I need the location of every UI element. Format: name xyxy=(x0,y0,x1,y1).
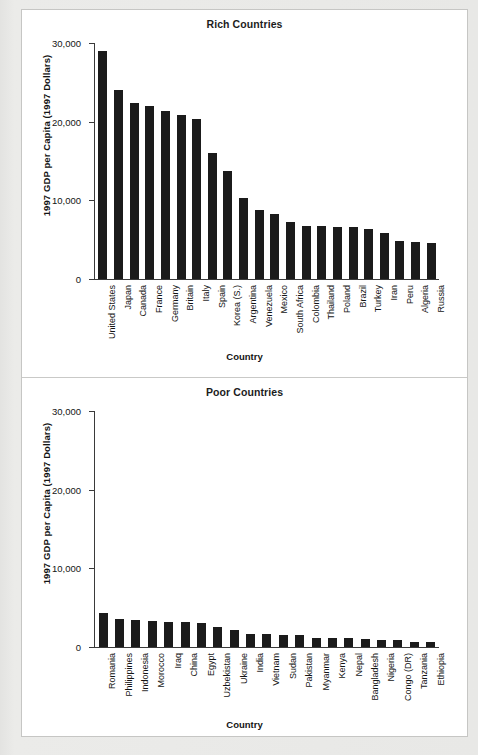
bar xyxy=(246,634,255,647)
page-background: Rich Countries 1997 GDP per Capita (1997… xyxy=(0,0,478,755)
bar xyxy=(393,640,402,647)
bar xyxy=(223,171,232,279)
bar-slot xyxy=(392,43,408,279)
bar-slot xyxy=(283,43,299,279)
bar-slot xyxy=(377,43,393,279)
bar xyxy=(295,635,304,647)
chart-panel-poor: Poor Countries 1997 GDP per Capita (1997… xyxy=(22,378,467,745)
bar-slot xyxy=(95,43,111,279)
bar xyxy=(344,638,353,647)
bar xyxy=(333,227,342,279)
bar xyxy=(131,620,140,647)
category-slot: Romania xyxy=(95,651,111,717)
bar-slot xyxy=(226,411,242,647)
bar-slot xyxy=(330,43,346,279)
bar-slot xyxy=(144,411,160,647)
category-slot: France xyxy=(142,283,158,349)
y-tick-label: 20,000 xyxy=(52,484,81,495)
bar-slot xyxy=(126,43,142,279)
chart-title-poor: Poor Countries xyxy=(22,386,467,398)
y-tick-label: 0 xyxy=(76,274,81,285)
bar-slot xyxy=(111,43,127,279)
bar xyxy=(361,639,370,647)
category-slot: South Africa xyxy=(283,283,299,349)
bar xyxy=(161,111,170,279)
bar xyxy=(286,222,295,279)
x-axis-label-rich: Country xyxy=(22,351,467,362)
chart-panel-rich: Rich Countries 1997 GDP per Capita (1997… xyxy=(22,10,467,377)
bar xyxy=(164,622,173,647)
bar xyxy=(317,226,326,279)
bar xyxy=(98,51,107,279)
category-slot: Philippines xyxy=(111,651,127,717)
category-slot: Japan xyxy=(111,283,127,349)
bar-slot xyxy=(251,43,267,279)
bar xyxy=(411,242,420,279)
category-slot: Myanmar xyxy=(308,651,324,717)
bar-slot xyxy=(275,411,291,647)
x-axis-tick-labels-poor: RomaniaPhilippinesIndonesiaMoroccoIraqCh… xyxy=(95,651,440,717)
bar xyxy=(130,103,139,279)
y-tick-poor-3: 30,000 xyxy=(89,411,94,412)
bar-slot xyxy=(361,43,377,279)
x-axis-line-rich xyxy=(94,279,439,280)
y-tick-poor-1: 10,000 xyxy=(89,568,94,569)
category-slot: Turkey xyxy=(361,283,377,349)
bar-slot xyxy=(373,411,389,647)
bar xyxy=(380,233,389,279)
bar-slot xyxy=(345,43,361,279)
figure-sheet: Rich Countries 1997 GDP per Capita (1997… xyxy=(21,9,468,737)
plot-area-poor: 010,00020,00030,000 xyxy=(94,411,439,648)
bar xyxy=(279,635,288,647)
bar-slot xyxy=(173,43,189,279)
category-slot: Egypt xyxy=(194,651,210,717)
y-tick-rich-3: 30,000 xyxy=(89,43,94,44)
category-slot: Nepal xyxy=(341,651,357,717)
bar-series-poor xyxy=(95,411,439,647)
y-tick-rich-1: 10,000 xyxy=(89,200,94,201)
bar-slot xyxy=(390,411,406,647)
bar-slot xyxy=(267,43,283,279)
category-slot: Pakistan xyxy=(292,651,308,717)
bar xyxy=(427,243,436,279)
category-slot: Spain xyxy=(205,283,221,349)
y-tick-label: 30,000 xyxy=(52,406,81,417)
category-slot: Algeria xyxy=(408,283,424,349)
category-slot: India xyxy=(243,651,259,717)
category-slot: Kenya xyxy=(325,651,341,717)
category-slot: Sudan xyxy=(276,651,292,717)
bar-slot xyxy=(220,43,236,279)
bar xyxy=(148,621,157,647)
category-slot: Poland xyxy=(330,283,346,349)
category-slot: Vietnam xyxy=(259,651,275,717)
category-slot: Ukraine xyxy=(226,651,242,717)
bar xyxy=(377,640,386,647)
bar xyxy=(115,619,124,647)
category-slot: Nigeria xyxy=(374,651,390,717)
category-label: Russia xyxy=(436,285,446,313)
category-slot: Thailand xyxy=(314,283,330,349)
bar-slot xyxy=(193,411,209,647)
bar xyxy=(181,622,190,647)
bar xyxy=(395,241,404,279)
bar-slot xyxy=(406,411,422,647)
category-slot: Russia xyxy=(424,283,440,349)
category-slot: Korea (S.) xyxy=(220,283,236,349)
bar xyxy=(410,642,419,648)
bar xyxy=(262,634,271,647)
bar-slot xyxy=(210,411,226,647)
bar xyxy=(349,227,358,279)
category-slot: Uzbekistan xyxy=(210,651,226,717)
bar xyxy=(239,198,248,279)
bar-slot xyxy=(158,43,174,279)
category-slot: Brazil xyxy=(346,283,362,349)
bar-slot xyxy=(324,411,340,647)
category-slot: Britain xyxy=(173,283,189,349)
category-slot: United States xyxy=(95,283,111,349)
category-slot: Peru xyxy=(393,283,409,349)
bar-slot xyxy=(128,411,144,647)
bar xyxy=(208,153,217,279)
bar-slot xyxy=(189,43,205,279)
bar-slot xyxy=(95,411,111,647)
y-tick-poor-0: 0 xyxy=(89,647,94,648)
